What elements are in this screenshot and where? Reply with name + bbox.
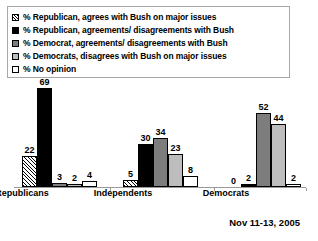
legend-label-4: % No opinion — [23, 64, 76, 75]
bar-slot: 3 — [52, 84, 67, 187]
bar-value-label: 52 — [258, 102, 268, 112]
bar-value-label: 0 — [231, 176, 236, 186]
bar-chart: % Republican, agrees with Bush on major … — [0, 0, 318, 241]
legend-swatch-hatch-icon — [12, 14, 19, 21]
bar-slot: 44 — [271, 84, 286, 187]
legend-item-4: % No opinion — [12, 63, 289, 76]
category-label-democrats: Democrats — [203, 188, 250, 199]
bar-slot: 2 — [67, 84, 82, 187]
legend-item-1: % Republican, agreements/ disagreements … — [12, 24, 289, 37]
bar — [82, 181, 97, 187]
chart-legend: % Republican, agrees with Bush on major … — [7, 6, 290, 78]
bar — [183, 176, 198, 187]
bar-set: 0252442 — [226, 84, 301, 187]
bar — [168, 154, 183, 187]
legend-swatch-white-icon — [12, 66, 19, 73]
bar-value-label: 69 — [39, 77, 49, 87]
bar-slot: 0 — [226, 84, 241, 187]
bar-value-label: 22 — [24, 145, 34, 155]
bar-slot: 22 — [22, 84, 37, 187]
legend-label-2: % Democrat, agreements/ disagreements wi… — [23, 38, 228, 49]
category-label-republicans: Republicans — [0, 188, 49, 199]
bar-value-label: 34 — [155, 127, 165, 137]
bar — [67, 184, 82, 187]
bar-value-label: 23 — [170, 143, 180, 153]
legend-item-0: % Republican, agrees with Bush on major … — [12, 11, 289, 24]
x-axis-line — [14, 187, 306, 188]
bar-slot: 69 — [37, 84, 52, 187]
legend-label-0: % Republican, agrees with Bush on major … — [23, 12, 216, 23]
category-label-independents: Independents — [94, 188, 153, 199]
legend-label-3: % Democrats, disagrees with Bush on majo… — [23, 51, 227, 62]
bar-slot: 4 — [82, 84, 97, 187]
bar — [52, 183, 67, 187]
date-annotation: Nov 11-13, 2005 — [229, 217, 300, 228]
bar — [37, 88, 52, 187]
bar-value-label: 44 — [273, 113, 283, 123]
bar-slot: 23 — [168, 84, 183, 187]
bar — [153, 138, 168, 187]
bar — [138, 144, 153, 187]
bar-value-label: 2 — [72, 173, 77, 183]
legend-swatch-black-icon — [12, 27, 19, 34]
bar-value-label: 5 — [128, 169, 133, 179]
legend-item-2: % Democrat, agreements/ disagreements wi… — [12, 37, 289, 50]
bar-slot: 30 — [138, 84, 153, 187]
legend-label-1: % Republican, agreements/ disagreements … — [23, 25, 234, 36]
bar — [256, 113, 271, 187]
bar-value-label: 4 — [87, 170, 92, 180]
bar-slot: 2 — [286, 84, 301, 187]
bar-set: 53034238 — [123, 84, 198, 187]
bar-slot: 34 — [153, 84, 168, 187]
bar — [123, 180, 138, 187]
bar-slot: 52 — [256, 84, 271, 187]
legend-swatch-dark-gray-icon — [12, 40, 19, 47]
bar — [22, 156, 37, 187]
bar-value-label: 30 — [140, 133, 150, 143]
bar — [241, 184, 256, 187]
bar-set: 2269324 — [22, 84, 97, 187]
plot-area: 2269324Republicans53034238Independents02… — [0, 84, 318, 188]
bar-value-label: 2 — [246, 173, 251, 183]
bar-value-label: 2 — [291, 173, 296, 183]
bar-slot: 5 — [123, 84, 138, 187]
legend-item-3: % Democrats, disagrees with Bush on majo… — [12, 50, 289, 63]
bar-value-label: 3 — [57, 172, 62, 182]
bar-slot: 2 — [241, 84, 256, 187]
legend-swatch-light-gray-icon — [12, 53, 19, 60]
bar-slot: 8 — [183, 84, 198, 187]
axis-tick — [306, 188, 307, 191]
bar — [271, 124, 286, 187]
bar-value-label: 8 — [188, 165, 193, 175]
bar — [286, 184, 301, 187]
